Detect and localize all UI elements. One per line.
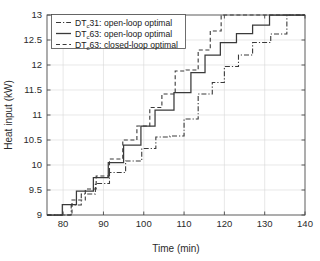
chart-canvas: 8090100110120130140 99.51010.51111.51212… [0, 0, 320, 261]
x-tick-label: 90 [98, 218, 109, 229]
y-tick-label: 10 [31, 159, 42, 170]
x-tick-label: 80 [58, 218, 69, 229]
legend-label-1: DTc63: open-loop optimal [75, 29, 172, 40]
x-tick-label: 100 [136, 218, 152, 229]
legend-items: DTc31: open-loop optimalDTc63: open-loop… [56, 18, 178, 51]
y-axis-title: Heat input (kW) [3, 80, 14, 149]
x-tick-label: 130 [257, 218, 273, 229]
y-tick-label: 9 [37, 209, 42, 220]
y-tick-label: 11 [32, 109, 42, 120]
x-tick-label: 120 [216, 218, 232, 229]
y-tick-label: 13 [31, 9, 42, 20]
y-tick-label: 11.5 [24, 84, 42, 95]
x-axis-title: Time (min) [152, 243, 199, 254]
y-tick-label: 10.5 [24, 134, 43, 145]
y-tick-label: 12 [31, 59, 42, 70]
x-tick-label: 110 [176, 218, 191, 229]
chart-legend[interactable]: DTc31: open-loop optimalDTc63: open-loop… [52, 15, 186, 51]
x-tick-label: 140 [297, 218, 313, 229]
chart-figure: 8090100110120130140 99.51010.51111.51212… [0, 0, 320, 261]
legend-label-0: DTc31: open-loop optimal [75, 18, 172, 29]
y-tick-label: 9.5 [29, 184, 42, 195]
y-tick-label: 12.5 [24, 34, 43, 45]
legend-label-2: DTc63: closed-loop optimal [75, 40, 178, 51]
